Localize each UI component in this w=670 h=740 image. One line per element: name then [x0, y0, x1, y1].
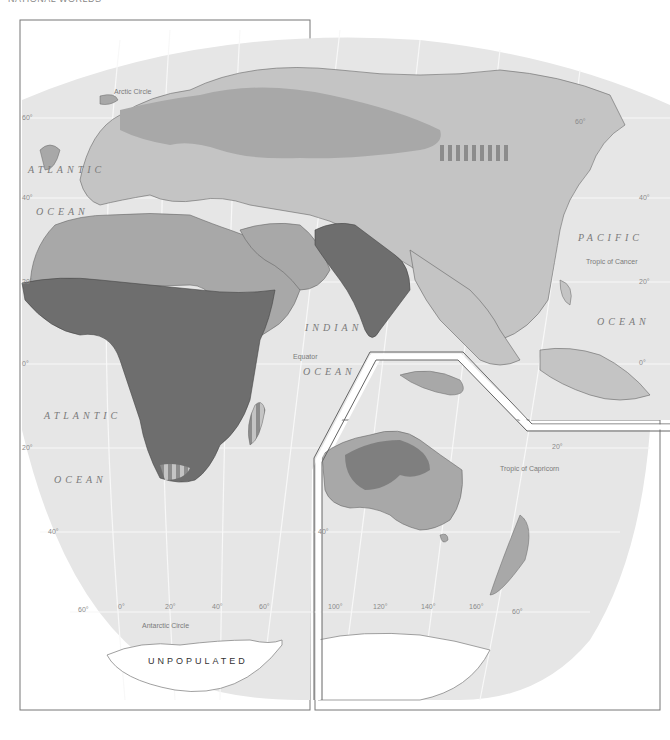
- degree-label: 100°: [328, 603, 342, 610]
- ocean-label-pacific: PACIFIC: [578, 232, 643, 243]
- degree-label: 40°: [318, 528, 329, 535]
- degree-label: 60°: [22, 114, 33, 121]
- degree-label: 40°: [48, 528, 59, 535]
- ocean-label-indian: INDIAN: [305, 322, 362, 333]
- ocean-label-indian-ocean: OCEAN: [303, 366, 356, 377]
- tropic-cancer-label: Tropic of Cancer: [586, 258, 637, 265]
- degree-label: 40°: [212, 603, 223, 610]
- degree-label: 0°: [22, 360, 29, 367]
- degree-label: 60°: [78, 606, 89, 613]
- ocean-label-atlantic-south: ATLANTIC: [44, 410, 121, 421]
- degree-label: 60°: [512, 608, 523, 615]
- degree-label: 160°: [469, 603, 483, 610]
- degree-label: 0°: [118, 603, 125, 610]
- ocean-label-atlantic-south-ocean: OCEAN: [54, 474, 107, 485]
- ocean-label-atlantic-north: ATLANTIC: [28, 164, 105, 175]
- degree-label: 20°: [552, 443, 563, 450]
- degree-label: 20°: [639, 278, 650, 285]
- degree-label: 40°: [22, 194, 33, 201]
- degree-label: 60°: [259, 603, 270, 610]
- degree-label: 20°: [22, 278, 33, 285]
- ocean-label-pacific-ocean: OCEAN: [597, 316, 650, 327]
- degree-label: 60°: [575, 118, 586, 125]
- degree-label: 0°: [639, 359, 646, 366]
- unpopulated-label: UNPOPULATED: [148, 656, 248, 666]
- degree-label: 40°: [639, 194, 650, 201]
- ocean-label-atlantic-north-ocean: OCEAN: [36, 206, 89, 217]
- tropic-capricorn-label: Tropic of Capricorn: [500, 465, 559, 472]
- degree-label: 120°: [373, 603, 387, 610]
- equator-label: Equator: [293, 353, 318, 360]
- antarctic-circle-label: Antarctic Circle: [142, 622, 189, 629]
- arctic-circle-label: Arctic Circle: [114, 88, 151, 95]
- degree-label: 20°: [22, 444, 33, 451]
- degree-label: 20°: [165, 603, 176, 610]
- degree-label: 140°: [421, 603, 435, 610]
